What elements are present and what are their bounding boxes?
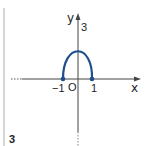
origin-label: O xyxy=(68,82,77,93)
y-tick-3: 3 xyxy=(81,22,87,33)
y-axis-arrow-icon xyxy=(76,13,81,20)
x-tick-neg1: −1 xyxy=(52,83,65,94)
point-neg1 xyxy=(61,77,66,82)
y-axis-label: y xyxy=(67,12,74,24)
x-axis-label: x xyxy=(131,82,138,94)
x-tick-1: 1 xyxy=(91,83,97,94)
panel-number: 3 xyxy=(9,133,15,145)
point-1 xyxy=(90,77,95,82)
